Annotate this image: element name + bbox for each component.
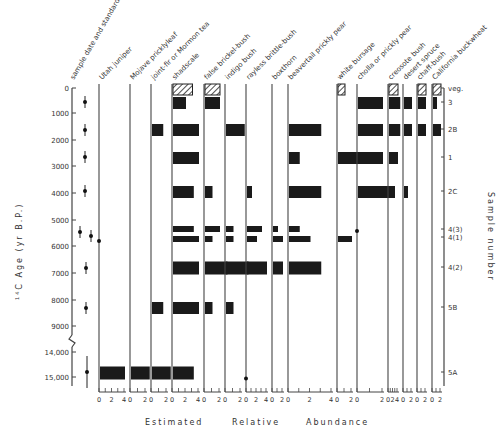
- taxon-panel: 024rayless brittle-bush: [244, 28, 298, 404]
- abundance-bar: [289, 152, 300, 164]
- abundance-bar: [289, 226, 300, 232]
- scale-tick-label: 2: [438, 396, 442, 404]
- abundance-chart: 010002000300040005000600070008000900014,…: [0, 0, 503, 438]
- right-axis-title: Sample number: [486, 192, 495, 282]
- abundance-bar: [358, 124, 383, 136]
- scale-tick-label: 0: [223, 396, 227, 404]
- scale-tick-label: 2: [423, 396, 427, 404]
- abundance-bar: [173, 262, 199, 275]
- modern-veg-bar: [338, 84, 345, 95]
- x-axis-title-2: Relative: [232, 418, 280, 427]
- scale-tick-label: 0: [355, 396, 359, 404]
- abundance-bar: [205, 97, 220, 109]
- scale-tick-label: 0: [401, 396, 405, 404]
- scale-tick-label: 4: [395, 396, 399, 404]
- abundance-bar: [131, 367, 150, 380]
- abundance-bar: [152, 367, 171, 380]
- abundance-bar: [289, 186, 321, 198]
- taxon-panel: 024shadscale: [170, 51, 201, 404]
- y-tick-label: 2000: [51, 137, 69, 145]
- abundance-bar: [289, 262, 321, 275]
- abundance-bar: [205, 302, 213, 314]
- taxon-panels: 024Utah juniper02Mojave pricklyleaf02joi…: [97, 20, 489, 404]
- abundance-bar: [389, 152, 398, 164]
- scale-tick-label: 2: [238, 396, 242, 404]
- abundance-bar: [173, 236, 199, 242]
- scale-tick-label: 0: [430, 396, 434, 404]
- abundance-bar: [433, 97, 437, 109]
- abundance-bar: [152, 124, 163, 136]
- scale-tick-label: 2: [109, 396, 113, 404]
- abundance-bar: [173, 226, 194, 232]
- y-tick-label: 6000: [51, 243, 69, 251]
- scale-tick-label: 2: [349, 396, 353, 404]
- abundance-bar: [389, 124, 400, 136]
- sample-number-label: 4(3): [448, 226, 463, 234]
- abundance-bar: [152, 302, 163, 314]
- abundance-bar: [418, 124, 426, 136]
- y-tick-label: 7000: [51, 270, 69, 278]
- modern-veg-bar: [418, 84, 426, 95]
- scale-tick-label: 0: [97, 396, 101, 404]
- y-tick-label: 3000: [51, 163, 69, 171]
- abundance-bar: [389, 186, 394, 198]
- abundance-bar: [173, 186, 194, 198]
- y-tick-label: 15,000: [45, 374, 70, 382]
- scale-tick-label: 4: [329, 396, 333, 404]
- modern-veg-bar: [433, 84, 441, 95]
- scale-tick-label: 2: [254, 396, 258, 404]
- abundance-bar: [273, 262, 283, 275]
- abundance-bar: [173, 97, 186, 109]
- y-tick-label: 5000: [51, 217, 69, 225]
- sample-number-label: veg.: [448, 85, 463, 93]
- sample-number-label: 5B: [448, 304, 457, 312]
- taxon-panel: 02cholla or prickly pear: [355, 24, 414, 404]
- modern-veg-bar: [389, 84, 398, 95]
- abundance-bar: [205, 236, 213, 242]
- abundance-bar: [273, 226, 278, 232]
- trace-marker: [97, 239, 101, 243]
- scale-tick-label: 0: [170, 396, 174, 404]
- sample-number-label: 4(2): [448, 264, 463, 272]
- abundance-bar: [289, 236, 311, 242]
- abundance-bar: [389, 97, 400, 109]
- y-tick-label: 14,000: [45, 349, 70, 357]
- abundance-bar: [289, 124, 321, 136]
- sample-number-label: 2C: [448, 188, 457, 196]
- scale-tick-label: 0: [286, 396, 290, 404]
- y-tick-label: 0: [65, 85, 69, 93]
- taxon-panel: 02indigo bush: [223, 47, 258, 404]
- scale-tick-label: 2: [183, 396, 187, 404]
- abundance-bar: [404, 124, 412, 136]
- abundance-bar: [100, 367, 125, 380]
- taxon-panel: 02false brickel-bush: [202, 32, 252, 404]
- y-axis-title: 14C Age (yr B.P.): [14, 203, 24, 300]
- scale-tick-label: 4: [264, 396, 268, 404]
- abundance-bar: [338, 236, 352, 242]
- abundance-bar: [205, 186, 213, 198]
- abundance-bar: [205, 262, 228, 275]
- scale-tick-label: 2: [409, 396, 413, 404]
- scale-tick-label: 2: [307, 396, 311, 404]
- scale-tick-label: 0: [128, 396, 132, 404]
- abundance-bar: [358, 97, 383, 109]
- sample-number-label: 3: [448, 99, 452, 107]
- scale-tick-label: 2: [143, 396, 147, 404]
- taxon-panel: 02California buckwheat: [430, 23, 489, 404]
- abundance-bar: [358, 152, 383, 164]
- scale-tick-label: 0: [415, 396, 419, 404]
- taxon-panel: 02white bursage: [335, 41, 377, 404]
- abundance-bar: [273, 236, 283, 242]
- modern-veg-bar: [205, 84, 220, 95]
- abundance-bar: [226, 124, 245, 136]
- scale-tick-label: 0: [202, 396, 206, 404]
- scale-tick-label: 2: [280, 396, 284, 404]
- sample-number-label: 4(1): [448, 234, 463, 242]
- modern-veg-bar: [173, 84, 193, 95]
- taxon-panel: 02desert spruce: [401, 42, 442, 404]
- x-axis-title-3: Abundance: [306, 418, 369, 427]
- abundance-bar: [433, 124, 441, 136]
- scale-tick-label: 2: [164, 396, 168, 404]
- y-tick-label: 1000: [51, 110, 69, 118]
- abundance-bar: [226, 302, 234, 314]
